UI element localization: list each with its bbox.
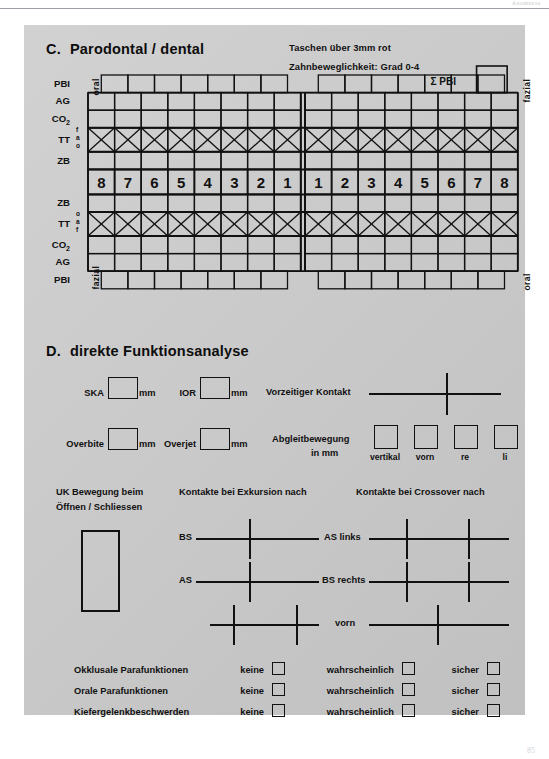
row-co2-cell[interactable] [332,110,359,128]
row-ag-lower-cell[interactable] [385,254,412,272]
row-zb-lower-cell[interactable] [305,194,332,212]
vorzeitiger-kontakt-vline[interactable] [446,373,448,415]
row-pbi-lower-cell[interactable] [398,271,425,289]
row-zb-lower-cell[interactable] [221,194,248,212]
row-pbi-cell[interactable] [345,75,372,93]
row-co2-lower-cell[interactable] [491,236,518,254]
sigma-pbi-box[interactable] [477,66,508,93]
row-co2-cell[interactable] [358,110,385,128]
row-co2-cell[interactable] [411,110,438,128]
abgleit-box-re[interactable] [454,425,478,449]
row-pbi-lower-cell[interactable] [261,271,288,289]
overjet-input-box[interactable] [200,428,230,450]
row-pbi-cell[interactable] [234,75,261,93]
row-ag-lower-cell[interactable] [115,254,142,272]
ior-input-box[interactable] [200,377,230,399]
row-zb-cell[interactable] [332,152,359,170]
row-zb-lower-cell[interactable] [332,194,359,212]
row-zb-lower-cell[interactable] [248,194,275,212]
checkbox-kiefergelenk-sicher[interactable] [487,704,500,717]
checkbox-kiefergelenk-keine[interactable] [272,704,285,717]
row-ag-cell[interactable] [465,93,492,111]
row-zb-lower-cell[interactable] [385,194,412,212]
row-zb-lower-cell[interactable] [465,194,492,212]
crossover-vline-1b[interactable] [468,519,470,559]
row-ag-lower-cell[interactable] [411,254,438,272]
row-zb-lower-cell[interactable] [491,194,518,212]
row-ag-cell[interactable] [194,93,221,111]
row-co2-lower-cell[interactable] [194,236,221,254]
row-ag-lower-cell[interactable] [332,254,359,272]
row-zb-lower-cell[interactable] [88,194,115,212]
row-co2-cell[interactable] [385,110,412,128]
row-pbi-lower-cell[interactable] [181,271,208,289]
row-zb-cell[interactable] [88,152,115,170]
row-zb-cell[interactable] [305,152,332,170]
row-pbi-lower-cell[interactable] [128,271,155,289]
row-zb-lower-cell[interactable] [194,194,221,212]
row-co2-cell[interactable] [115,110,142,128]
row-zb-lower-cell[interactable] [411,194,438,212]
checkbox-okklusale-keine[interactable] [272,662,285,675]
row-pbi-cell[interactable] [261,75,288,93]
excursion-hline-3[interactable] [210,624,319,626]
row-ag-cell[interactable] [305,93,332,111]
abgleit-box-vorn[interactable] [414,425,438,449]
row-zb-cell[interactable] [491,152,518,170]
row-pbi-cell[interactable] [398,75,425,93]
row-ag-lower-cell[interactable] [248,254,275,272]
row-co2-cell[interactable] [274,110,301,128]
crossover-vline-2a[interactable] [406,562,408,602]
row-zb-cell[interactable] [385,152,412,170]
row-pbi-lower-cell[interactable] [372,271,399,289]
row-co2-cell[interactable] [168,110,195,128]
row-ag-cell[interactable] [411,93,438,111]
row-ag-cell[interactable] [332,93,359,111]
excursion-vline-2[interactable] [249,562,251,602]
checkbox-okklusale-sicher[interactable] [487,662,500,675]
row-pbi-lower-cell[interactable] [208,271,235,289]
crossover-vline-3[interactable] [437,605,439,645]
row-pbi-cell[interactable] [181,75,208,93]
checkbox-orale-sicher[interactable] [487,683,500,696]
row-co2-lower-cell[interactable] [465,236,492,254]
row-zb-cell[interactable] [274,152,301,170]
row-zb-lower-cell[interactable] [115,194,142,212]
crossover-vline-1a[interactable] [406,519,408,559]
row-pbi-lower-cell[interactable] [478,271,505,289]
row-ag-lower-cell[interactable] [438,254,465,272]
row-pbi-cell[interactable] [318,75,345,93]
excursion-vline-1[interactable] [249,519,251,559]
row-ag-lower-cell[interactable] [221,254,248,272]
vorzeitiger-kontakt-hline[interactable] [369,393,501,395]
row-zb-lower-cell[interactable] [168,194,195,212]
row-zb-cell[interactable] [248,152,275,170]
row-pbi-lower-cell[interactable] [345,271,372,289]
row-zb-lower-cell[interactable] [141,194,168,212]
row-pbi-lower-cell[interactable] [425,271,452,289]
abgleit-box-li[interactable] [494,425,518,449]
row-zb-lower-cell[interactable] [274,194,301,212]
checkbox-orale-keine[interactable] [272,683,285,696]
excursion-hline-2[interactable] [196,581,319,583]
row-zb-lower-cell[interactable] [438,194,465,212]
excursion-vline-3a[interactable] [233,605,235,645]
crossover-hline-2[interactable] [369,581,509,583]
row-co2-cell[interactable] [221,110,248,128]
row-pbi-cell[interactable] [155,75,182,93]
abgleit-box-vertikal[interactable] [374,425,398,449]
row-ag-cell[interactable] [141,93,168,111]
checkbox-okklusale-wahrscheinlich[interactable] [402,662,415,675]
row-pbi-cell[interactable] [208,75,235,93]
row-co2-lower-cell[interactable] [248,236,275,254]
row-ag-cell[interactable] [248,93,275,111]
row-co2-lower-cell[interactable] [141,236,168,254]
row-ag-lower-cell[interactable] [358,254,385,272]
row-co2-lower-cell[interactable] [88,236,115,254]
crossover-vline-2b[interactable] [468,562,470,602]
row-co2-lower-cell[interactable] [168,236,195,254]
row-ag-lower-cell[interactable] [305,254,332,272]
row-ag-lower-cell[interactable] [465,254,492,272]
row-co2-cell[interactable] [305,110,332,128]
excursion-hline-1[interactable] [196,538,319,540]
